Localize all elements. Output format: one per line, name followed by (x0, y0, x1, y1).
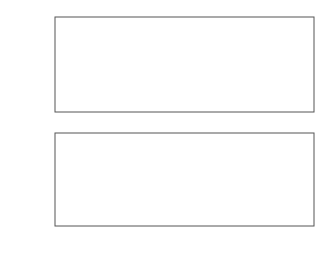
magnitude-panel (55, 17, 314, 112)
phase-panel (55, 133, 314, 226)
bode-figure (0, 0, 332, 268)
magnitude-plot-area (55, 17, 314, 112)
phase-plot-area (55, 133, 314, 226)
